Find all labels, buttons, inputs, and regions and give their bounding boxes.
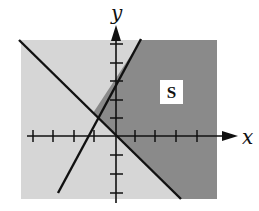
region-label: S [167,83,176,102]
x-axis-label: x [242,125,253,149]
y-axis-arrow-icon [111,25,121,41]
graph-svg: S x y [0,0,259,211]
inequality-graph: S x y [0,0,259,211]
y-axis-label: y [110,1,123,25]
x-axis-arrow-icon [222,131,238,141]
